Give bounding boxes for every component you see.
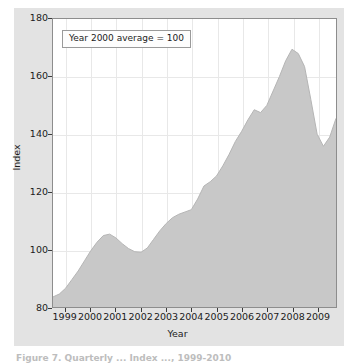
y-tick-mark [48,18,52,19]
y-tick-mark [48,308,52,309]
area-series [53,19,336,307]
annotation-callout: Year 2000 average = 100 [62,30,191,48]
x-tick-mark [65,308,66,312]
area-fill-path [53,49,336,307]
y-tick-label: 160 [12,71,48,81]
x-tick-mark [242,308,243,312]
y-tick-mark [48,134,52,135]
annotation-text: Year 2000 average = 100 [69,33,184,43]
y-tick-mark [48,76,52,77]
x-tick-label: 2009 [301,311,335,322]
x-tick-mark [90,308,91,312]
y-tick-label: 180 [12,13,48,23]
x-tick-mark [141,308,142,312]
x-tick-mark [166,308,167,312]
y-tick-mark [48,192,52,193]
plot-area [52,18,337,308]
figure-canvas: 80100120140160180 Year 2000 average = 10… [0,0,355,363]
y-axis-title: Index [11,128,22,188]
figure-caption-cutoff: Figure 7. Quarterly ... Index ..., 1999-… [16,352,338,363]
x-tick-mark [115,308,116,312]
x-tick-mark [191,308,192,312]
y-tick-mark [48,250,52,251]
y-axis-ticks: 80100120140160180 [0,0,48,363]
x-tick-mark [267,308,268,312]
x-tick-mark [318,308,319,312]
y-tick-label: 100 [12,245,48,255]
y-tick-label: 120 [12,187,48,197]
x-axis-title: Year [0,328,355,339]
y-tick-label: 80 [12,303,48,313]
x-tick-mark [217,308,218,312]
x-tick-mark [293,308,294,312]
